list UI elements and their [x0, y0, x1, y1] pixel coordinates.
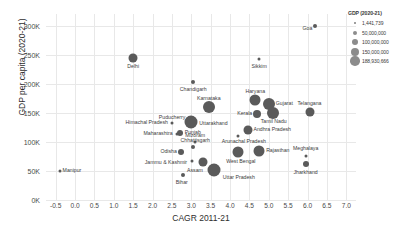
data-point[interactable] — [198, 157, 207, 166]
gridline-vertical — [230, 14, 231, 200]
gridline-vertical — [114, 14, 115, 200]
data-point-label: Jharkhand — [294, 170, 318, 175]
data-point[interactable] — [305, 107, 314, 116]
y-axis-tick-label: 0K — [31, 197, 40, 204]
data-point-label: Maharashtra — [143, 131, 172, 136]
data-point-label: Assam — [187, 168, 203, 173]
data-point[interactable] — [313, 24, 317, 28]
gridline-horizontal — [46, 84, 356, 85]
gridline-vertical — [172, 14, 173, 200]
data-point-label: Delhi — [127, 64, 139, 69]
data-point-label: Rajasthan — [266, 148, 289, 153]
data-point-label: Gujarat — [276, 101, 293, 106]
gridline-vertical — [249, 14, 250, 200]
data-point-label: Arunachal Pradesh — [222, 139, 266, 144]
x-axis-tick-label: 5.0 — [264, 202, 273, 209]
x-axis-tick-label: 3.5 — [206, 202, 215, 209]
gridline-vertical — [288, 14, 289, 200]
legend-bubble-icon — [348, 39, 362, 45]
legend-item-label: 50,000,000 — [362, 30, 386, 36]
legend-rows: 1,441,73950,000,000100,000,000150,000,00… — [348, 19, 408, 67]
data-point-label: Bihar — [176, 180, 188, 185]
plot-area: GoaDelhiSikkimChandigarhHaryanaKarnataka… — [46, 14, 356, 200]
data-point[interactable] — [207, 163, 220, 176]
legend-item[interactable]: 150,000,000 — [348, 47, 408, 57]
legend-bubble-icon — [348, 31, 362, 35]
gridline-vertical — [153, 14, 154, 200]
data-point[interactable] — [129, 53, 138, 62]
data-point-label: Sikkim — [251, 64, 266, 69]
gridline-horizontal — [46, 200, 356, 201]
legend-item[interactable]: 1,441,739 — [348, 19, 408, 29]
x-axis-tick-label: 0.0 — [70, 202, 79, 209]
scatter-chart: 0K50K100K150K200K250K300K GoaDelhiSikkim… — [0, 0, 410, 245]
data-point-label: Haryana — [245, 89, 265, 94]
legend-item[interactable]: 188,930,666 — [348, 57, 408, 67]
gridline-vertical — [327, 14, 328, 200]
x-axis-tick-label: 5.5 — [284, 202, 293, 209]
data-point[interactable] — [253, 110, 261, 118]
data-point[interactable] — [236, 135, 239, 138]
data-point-label: Karnataka — [197, 96, 221, 101]
x-axis-tick-label: 6.0 — [303, 202, 312, 209]
legend-item-label: 188,930,666 — [362, 58, 389, 64]
data-point[interactable] — [303, 161, 309, 167]
data-point[interactable] — [258, 57, 261, 60]
x-axis-tick-label: 4.5 — [245, 202, 254, 209]
data-point[interactable] — [243, 126, 252, 135]
x-axis-tick-label: 1.5 — [129, 202, 138, 209]
data-point-label: Meghalaya — [293, 147, 318, 152]
legend-item-label: 100,000,000 — [362, 39, 389, 45]
legend-item[interactable]: 100,000,000 — [348, 38, 408, 48]
y-axis-tick-label: 50K — [28, 167, 40, 174]
y-axis-label: GDP per capita (2020-21) — [17, 0, 27, 137]
legend-item[interactable]: 50,000,000 — [348, 28, 408, 38]
x-axis-tick-label: 1.0 — [109, 202, 118, 209]
data-point[interactable] — [254, 145, 265, 156]
gridline-vertical — [94, 14, 95, 200]
data-point-label: Uttarakhand — [199, 121, 227, 126]
gridline-vertical — [56, 14, 57, 200]
data-point[interactable] — [170, 121, 173, 124]
data-point-label: Manipur — [63, 168, 82, 173]
data-point-label: Chandigarh — [180, 87, 207, 92]
legend-item-label: 1,441,739 — [362, 20, 383, 26]
x-axis-tick-label: 7.0 — [342, 202, 351, 209]
data-point-label: West Bengal — [226, 159, 255, 164]
legend-bubble-icon — [348, 56, 362, 66]
x-axis-tick-label: 2.5 — [167, 202, 176, 209]
data-point-label: Goa — [303, 26, 313, 31]
data-point[interactable] — [250, 95, 261, 106]
data-point[interactable] — [185, 115, 198, 128]
data-point[interactable] — [191, 80, 195, 84]
legend: GDP (2020-21) 1,441,73950,000,000100,000… — [348, 10, 408, 66]
legend-bubble-icon — [348, 22, 362, 24]
gridline-horizontal — [46, 55, 356, 56]
data-point-label: Jammu & Kashmir — [145, 160, 187, 165]
data-point[interactable] — [232, 146, 243, 157]
data-point[interactable] — [58, 169, 61, 172]
x-axis-label: CAGR 2011-21 — [46, 213, 356, 223]
data-point[interactable] — [191, 160, 194, 163]
data-point-label: Uttar Pradesh — [223, 175, 255, 180]
data-point-label: Chhattisgarh — [181, 138, 210, 143]
data-point[interactable] — [304, 155, 307, 158]
x-axis-tick-label: 4.0 — [225, 202, 234, 209]
data-point[interactable] — [203, 101, 215, 113]
gridline-vertical — [133, 14, 134, 200]
x-axis-tick-label: 6.5 — [322, 202, 331, 209]
legend-bubble-icon — [348, 48, 362, 56]
data-point[interactable] — [181, 173, 185, 177]
data-point-label: Andhra Pradesh — [254, 128, 292, 133]
data-point[interactable] — [178, 149, 184, 155]
data-point-label: Kerala — [237, 111, 252, 116]
data-point[interactable] — [267, 107, 279, 119]
data-point-label: Telangana — [298, 101, 322, 106]
data-point-label: Himachal Pradesh — [126, 120, 168, 125]
y-axis-tick-label: 100K — [24, 138, 40, 145]
data-point-label: Tamil Nadu — [261, 119, 287, 124]
x-axis-tick-label: 2.0 — [148, 202, 157, 209]
data-point[interactable] — [191, 145, 195, 149]
data-point-label: Odisha — [160, 149, 176, 154]
data-point[interactable] — [175, 132, 178, 135]
